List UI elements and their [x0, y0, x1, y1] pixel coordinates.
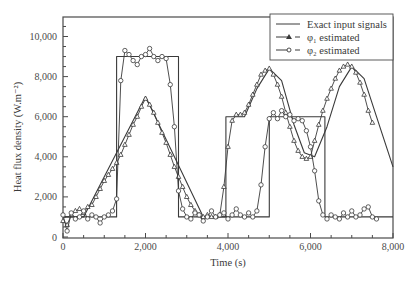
circle-marker-icon — [73, 217, 77, 221]
circle-marker-icon — [362, 207, 366, 211]
circle-marker-icon — [370, 215, 374, 219]
series-2 — [61, 62, 375, 227]
circle-marker-icon — [358, 213, 362, 217]
triangle-marker-icon — [345, 62, 350, 66]
circle-marker-icon — [193, 211, 197, 215]
triangle-marker-icon — [77, 206, 82, 210]
circle-marker-icon — [251, 215, 255, 219]
circle-marker-icon — [102, 215, 106, 219]
circle-marker-icon — [284, 115, 288, 119]
circle-marker-icon — [329, 213, 333, 217]
circle-marker-icon — [222, 211, 226, 215]
circle-marker-icon — [304, 129, 308, 133]
circle-marker-icon — [110, 209, 114, 213]
circle-marker-icon — [114, 197, 118, 201]
circle-marker-icon — [152, 54, 156, 58]
circle-marker-icon — [205, 215, 209, 219]
triangle-marker-icon — [180, 184, 185, 188]
triangle-marker-icon — [292, 138, 297, 142]
circle-marker-icon — [288, 112, 292, 116]
circle-marker-icon — [317, 199, 321, 203]
triangle-marker-icon — [362, 92, 367, 96]
circle-marker-icon — [292, 119, 296, 123]
circle-marker-icon — [234, 207, 238, 211]
circle-marker-icon — [119, 78, 123, 82]
circle-marker-icon — [172, 125, 176, 129]
circle-marker-icon — [259, 183, 263, 187]
triangle-marker-icon — [176, 174, 181, 178]
y-tick-label: 4,000 — [35, 151, 58, 162]
y-tick-label: 8,000 — [35, 71, 58, 82]
x-axis-title: Time (s) — [210, 257, 246, 269]
triangle-marker-icon — [156, 120, 161, 124]
circle-marker-icon — [209, 209, 213, 213]
circle-marker-icon — [333, 215, 337, 219]
circle-marker-icon — [279, 108, 283, 112]
x-tick-label: 6,000 — [299, 241, 322, 252]
triangle-marker-icon — [172, 164, 177, 168]
circle-marker-icon — [255, 209, 259, 213]
triangle-marker-icon — [189, 202, 194, 206]
circle-marker-icon — [77, 215, 81, 219]
triangle-marker-icon — [234, 112, 239, 116]
circle-marker-icon — [123, 48, 127, 52]
circle-marker-icon — [65, 229, 69, 233]
legend-phi1-label: φ₁ estimated — [307, 32, 360, 43]
triangle-marker-icon — [123, 142, 128, 146]
legend-exact-label: Exact input signals — [307, 19, 387, 30]
circle-marker-icon — [127, 52, 131, 56]
circle-marker-icon — [213, 215, 217, 219]
triangle-marker-icon — [275, 82, 280, 86]
circle-marker-icon — [86, 217, 90, 221]
triangle-marker-icon — [329, 86, 334, 90]
circle-marker-icon — [287, 48, 291, 52]
circle-marker-icon — [147, 46, 151, 50]
triangle-marker-icon — [288, 124, 293, 128]
circle-marker-icon — [374, 217, 378, 221]
triangle-marker-icon — [143, 96, 148, 100]
triangle-marker-icon — [168, 152, 173, 156]
chart: 02,0004,0006,0008,00002,0004,0006,0008,0… — [0, 0, 418, 281]
circle-marker-icon — [226, 217, 230, 221]
circle-marker-icon — [94, 215, 98, 219]
y-tick-label: 0 — [52, 232, 57, 243]
circle-marker-icon — [201, 219, 205, 223]
circle-marker-icon — [69, 211, 73, 215]
circle-marker-icon — [350, 209, 354, 213]
circle-marker-icon — [185, 215, 189, 219]
circle-marker-icon — [168, 82, 172, 86]
triangle-marker-icon — [358, 80, 363, 84]
triangle-marker-icon — [325, 96, 330, 100]
series-layer — [61, 46, 393, 233]
triangle-marker-icon — [118, 152, 123, 156]
triangle-marker-icon — [296, 148, 301, 152]
circle-marker-icon — [139, 54, 143, 58]
circle-marker-icon — [197, 213, 201, 217]
x-tick-label: 8,000 — [382, 241, 405, 252]
circle-marker-icon — [275, 117, 279, 121]
circle-marker-icon — [300, 119, 304, 123]
circle-marker-icon — [308, 145, 312, 149]
circle-marker-icon — [242, 215, 246, 219]
series-0 — [63, 67, 393, 217]
circle-marker-icon — [271, 110, 275, 114]
triangle-marker-icon — [267, 66, 272, 70]
triangle-marker-icon — [321, 108, 326, 112]
circle-marker-icon — [218, 213, 222, 217]
circle-marker-icon — [90, 213, 94, 217]
circle-marker-icon — [81, 209, 85, 213]
circle-marker-icon — [230, 213, 234, 217]
y-tick-label: 2,000 — [35, 191, 58, 202]
circle-marker-icon — [156, 58, 160, 62]
legend: Exact input signals φ₁ estimated φ₂ esti… — [270, 14, 393, 60]
circle-marker-icon — [176, 189, 180, 193]
triangle-marker-icon — [139, 104, 144, 108]
circle-marker-icon — [164, 56, 168, 60]
triangle-marker-icon — [255, 82, 260, 86]
triangle-marker-icon — [312, 138, 317, 142]
triangle-marker-icon — [316, 122, 321, 126]
circle-marker-icon — [366, 205, 370, 209]
circle-marker-icon — [341, 211, 345, 215]
x-tick-label: 0 — [61, 241, 66, 252]
circle-marker-icon — [337, 217, 341, 221]
